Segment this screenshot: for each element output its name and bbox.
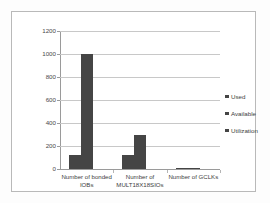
y-tick-label: 400	[46, 120, 56, 126]
x-axis-line	[60, 169, 220, 170]
legend-swatch-icon	[225, 129, 229, 133]
bar	[176, 168, 188, 169]
chart-figure: 020040060080010001200 Number of bonded I…	[0, 0, 270, 203]
legend-item[interactable]: Used	[225, 88, 267, 105]
y-tick-label: 1000	[42, 51, 56, 57]
legend-swatch-icon	[225, 112, 229, 116]
y-tick-mark	[57, 123, 60, 124]
y-tick-mark	[57, 100, 60, 101]
bar-series-group	[61, 31, 220, 169]
legend-item[interactable]: Utilization	[225, 122, 267, 139]
bar	[69, 155, 81, 169]
legend-item[interactable]: Available	[225, 105, 267, 122]
y-tick-mark	[57, 31, 60, 32]
plot-area	[60, 31, 220, 169]
bar	[122, 155, 134, 169]
legend-swatch-icon	[225, 95, 229, 99]
chart-legend: UsedAvailableUtilization	[225, 88, 267, 139]
x-axis-labels: Number of bonded IOBsNumber of MULT18X18…	[60, 173, 220, 197]
y-tick-label: 800	[46, 74, 56, 80]
y-tick-label: 0	[53, 166, 56, 172]
legend-label: Used	[231, 93, 245, 100]
y-tick-mark	[57, 169, 60, 170]
y-tick-mark	[57, 54, 60, 55]
y-tick-label: 1200	[42, 28, 56, 34]
legend-label: Utilization	[231, 127, 258, 134]
y-axis-labels: 020040060080010001200	[12, 31, 56, 170]
y-tick-mark	[57, 146, 60, 147]
y-tick-label: 200	[46, 143, 56, 149]
bar	[81, 54, 93, 169]
y-tick-mark	[57, 77, 60, 78]
bar	[188, 168, 200, 169]
y-tick-label: 600	[46, 97, 56, 103]
bar	[134, 135, 146, 170]
chart-frame: 020040060080010001200 Number of bonded I…	[11, 11, 256, 192]
legend-label: Available	[231, 110, 256, 117]
x-tick-label: Number of GCLKs	[161, 173, 226, 181]
